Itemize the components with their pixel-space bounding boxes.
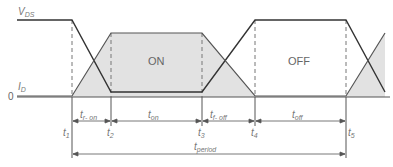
tr-on-label: tr- on xyxy=(80,110,97,121)
t5-label: t5 xyxy=(348,128,355,139)
id-label: ID xyxy=(18,82,26,93)
t2-label: t2 xyxy=(107,128,114,139)
off-state-label: OFF xyxy=(288,56,310,67)
t-period-label: tperiod xyxy=(194,142,216,153)
t1-label: t1 xyxy=(63,128,70,139)
tf-off-label: tf- off xyxy=(210,110,227,121)
vds-label: VDS xyxy=(18,7,34,18)
t-on-label: ton xyxy=(148,110,159,121)
t4-label: t4 xyxy=(251,128,258,139)
t-off-label: toff xyxy=(292,110,303,121)
zero-label: 0 xyxy=(8,92,14,102)
on-state-label: ON xyxy=(148,56,165,67)
t3-label: t3 xyxy=(198,128,205,139)
